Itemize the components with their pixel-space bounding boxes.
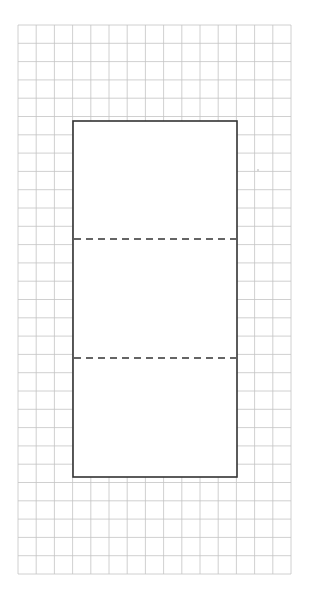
speck-mark <box>257 169 258 170</box>
rectangle-outline <box>73 121 237 477</box>
grid-diagram <box>0 0 309 598</box>
